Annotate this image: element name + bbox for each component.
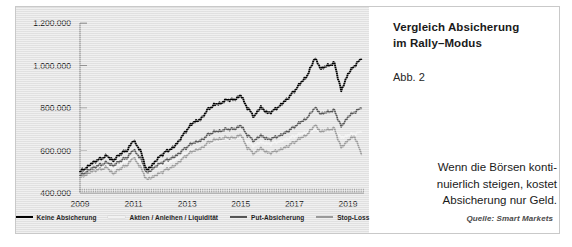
y-axis-labels: 400.000600.000800.0001.000.0001.200.000	[33, 18, 87, 198]
legend-swatch-icon	[230, 216, 247, 218]
figure-container: 400.000600.000800.0001.000.0001.200.000 …	[0, 0, 572, 247]
x-axis-tick-label: 2013	[178, 199, 197, 209]
legend-swatch-icon	[16, 216, 33, 218]
legend-item: Stop-Loss	[316, 214, 369, 221]
figure-number-label: Abb. 2	[393, 71, 425, 83]
chart-panel: 400.000600.000800.0001.000.0001.200.000 …	[16, 7, 369, 233]
caption-line-2: nuierlich steigen, kostet	[437, 178, 557, 190]
legend-item: Put-Absicherung	[230, 214, 304, 221]
line-chart: 400.000600.000800.0001.000.0001.200.000 …	[16, 7, 369, 233]
x-axis-tick-label: 2015	[231, 199, 250, 209]
x-axis-tick-label: 2017	[285, 199, 304, 209]
x-axis-tick-label: 2009	[71, 199, 90, 209]
x-axis-minor-ticks	[80, 189, 363, 194]
caption-line-3: Absicherung nur Geld.	[443, 194, 557, 206]
text-panel: Vergleich Absicherung im Rally–Modus Abb…	[385, 7, 559, 233]
y-axis-tick-label: 400.000	[40, 188, 71, 198]
y-axis-tick-label: 1.000.000	[33, 61, 71, 71]
series-lines	[80, 59, 361, 180]
x-axis-tick-label: 2011	[124, 199, 143, 209]
chart-title: Vergleich Absicherung im Rally–Modus	[393, 19, 555, 52]
series-line	[80, 59, 361, 172]
legend-item: Keine Absicherung	[16, 214, 97, 221]
legend-swatch-icon	[108, 216, 125, 218]
legend-label: Put-Absicherung	[251, 214, 304, 221]
y-axis-tick-label: 800.000	[40, 103, 71, 113]
y-axis-tick-label: 1.200.000	[33, 18, 71, 28]
legend-label: Keine Absicherung	[37, 214, 97, 221]
x-axis-tick-label: 2019	[338, 199, 357, 209]
source-attribution: Quelle: Smart Markets	[466, 214, 553, 223]
chart-legend: Keine AbsicherungAktien / Anleihen / Liq…	[16, 209, 369, 225]
legend-label: Aktien / Anleihen / Liquidität	[129, 214, 218, 221]
legend-item: Aktien / Anleihen / Liquidität	[108, 214, 218, 221]
x-axis-labels: 200920112013201520172019	[71, 199, 358, 209]
y-axis-tick-label: 600.000	[40, 146, 71, 156]
chart-title-line-1: Vergleich Absicherung	[393, 21, 519, 33]
caption-line-1: Wenn die Börsen konti-	[438, 161, 557, 173]
figure-caption: Wenn die Börsen konti- nuierlich steigen…	[391, 159, 557, 209]
legend-label: Stop-Loss	[337, 214, 369, 221]
legend-swatch-icon	[316, 216, 333, 218]
chart-title-line-2: im Rally–Modus	[393, 37, 482, 49]
